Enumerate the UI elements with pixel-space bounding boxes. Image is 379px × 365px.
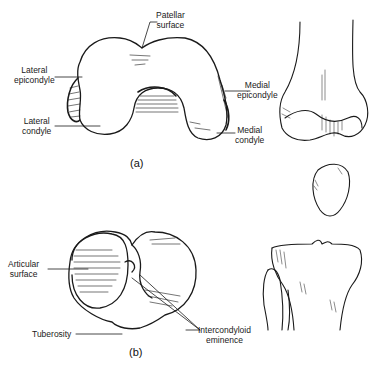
- label-tuberosity: Tuberosity: [32, 329, 71, 339]
- label-line: Medial: [237, 80, 278, 90]
- label-line: condyle: [235, 135, 264, 145]
- tibia-superior-view: [69, 231, 196, 329]
- femur-anterior-view: [280, 20, 368, 140]
- label-medial-condyle: Medial condyle: [235, 125, 264, 145]
- label-line: surface: [8, 269, 39, 279]
- femur-inferior-view: [67, 38, 228, 140]
- label-line: Articular: [8, 259, 39, 269]
- label-line: eminence: [198, 335, 251, 345]
- label-patellar-surface: Patellar surface: [156, 10, 185, 30]
- label-lateral-epicondyle: Lateral epicondyle: [14, 65, 55, 85]
- label-line: surface: [156, 20, 185, 30]
- panel-a-caption: (a): [130, 157, 143, 169]
- label-line: Tuberosity: [32, 329, 71, 339]
- label-line: Patellar: [156, 10, 185, 20]
- label-medial-epicondyle: Medial epicondyle: [237, 80, 278, 100]
- panel-b-leader-lines: [48, 269, 200, 334]
- label-articular-surface: Articular surface: [8, 259, 39, 279]
- panel-a-leader-lines: [55, 22, 250, 133]
- tibia-anterior-view: [263, 240, 361, 330]
- label-line: Lateral: [22, 116, 51, 126]
- label-line: Medial: [235, 125, 264, 135]
- patella-view: [313, 164, 350, 216]
- label-line: Lateral: [14, 65, 55, 75]
- knee-bones-illustration: [0, 0, 379, 365]
- label-line: condyle: [22, 126, 51, 136]
- label-lateral-condyle: Lateral condyle: [22, 116, 51, 136]
- label-line: epicondyle: [237, 90, 278, 100]
- label-line: epicondyle: [14, 75, 55, 85]
- label-intercondyloid-eminence: Intercondyloid eminence: [198, 325, 251, 345]
- panel-b-caption: (b): [129, 346, 142, 358]
- label-line: Intercondyloid: [198, 325, 251, 335]
